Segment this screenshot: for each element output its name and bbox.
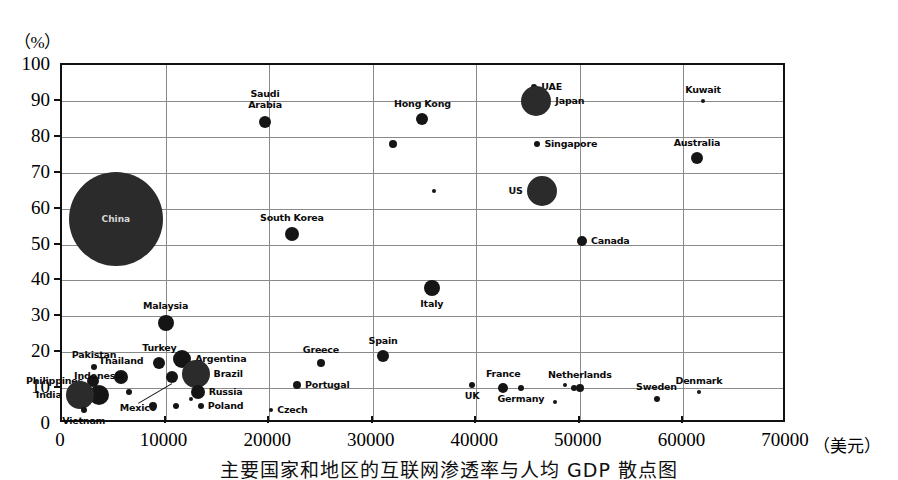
y-tick-label-100: 100 — [0, 54, 50, 73]
x-tick-mark-20000 — [267, 416, 269, 423]
bubble-label-czech: Czech — [277, 405, 307, 415]
bubble-label-sweden: Sweden — [636, 382, 677, 392]
x-axis-unit-label: （美元） — [813, 432, 881, 457]
bubble-singapore[interactable] — [534, 141, 540, 147]
bubble-label-hong-kong: Hong Kong — [394, 99, 451, 109]
bubble-germany[interactable] — [518, 385, 524, 391]
y-tick-mark-20 — [54, 350, 61, 352]
y-tick-mark-70 — [54, 171, 61, 173]
y-tick-label-30: 30 — [0, 305, 50, 324]
bubble-label-netherlands: Netherlands — [548, 370, 612, 380]
bubble-japan[interactable] — [521, 86, 551, 116]
bubble-uk[interactable] — [469, 382, 475, 388]
x-tick-label-60000: 60000 — [621, 430, 741, 449]
bubble-label-france: France — [486, 369, 521, 379]
bubble-australia[interactable] — [691, 152, 703, 164]
y-tick-mark-90 — [54, 99, 61, 101]
y-tick-label-10: 10 — [0, 377, 50, 396]
x-tick-mark-60000 — [681, 416, 683, 423]
bubble-label-indonesia: Indonesia — [74, 371, 124, 381]
bubble-portugal[interactable] — [293, 381, 301, 389]
y-tick-mark-60 — [54, 207, 61, 209]
gridline-x-40000 — [476, 65, 477, 420]
y-tick-label-50: 50 — [0, 234, 50, 253]
gridline-y-60 — [62, 209, 783, 210]
gridline-x-30000 — [373, 65, 374, 420]
bubble-unlabeled-3[interactable] — [126, 389, 132, 395]
bubble-czech[interactable] — [269, 408, 273, 412]
x-tick-mark-50000 — [578, 416, 580, 423]
x-tick-mark-40000 — [474, 416, 476, 423]
bubble-saudi-arabia[interactable] — [259, 116, 271, 128]
bubble-unlabeled-9[interactable] — [553, 400, 557, 404]
bubble-sweden[interactable] — [654, 396, 660, 402]
bubble-brazil[interactable] — [182, 360, 210, 388]
x-tick-label-20000: 20000 — [207, 430, 327, 449]
x-tick-label-50000: 50000 — [518, 430, 638, 449]
y-tick-label-40: 40 — [0, 269, 50, 288]
y-tick-label-70: 70 — [0, 162, 50, 181]
bubble-denmark[interactable] — [697, 390, 701, 394]
y-tick-mark-80 — [54, 135, 61, 137]
gridline-x-60000 — [683, 65, 684, 420]
bubble-south-korea[interactable] — [285, 227, 299, 241]
bubble-label-turkey: Turkey — [142, 343, 176, 353]
bubble-label-kuwait: Kuwait — [685, 85, 721, 95]
bubble-poland[interactable] — [198, 403, 204, 409]
bubble-pakistan[interactable] — [91, 364, 97, 370]
bubble-unlabeled-7[interactable] — [563, 383, 567, 387]
x-tick-label-40000: 40000 — [414, 430, 534, 449]
bubble-label-australia: Australia — [674, 138, 721, 148]
bubble-hong-kong[interactable] — [416, 113, 428, 125]
bubble-india[interactable] — [66, 381, 94, 409]
bubble-malaysia[interactable] — [158, 315, 174, 331]
x-tick-mark-30000 — [371, 416, 373, 423]
bubble-label-portugal: Portugal — [305, 380, 349, 390]
bubble-vietnam[interactable] — [81, 407, 87, 413]
bubble-unlabeled-1[interactable] — [389, 140, 397, 148]
y-tick-mark-10 — [54, 386, 61, 388]
bubble-label-greece: Greece — [303, 345, 339, 355]
bubble-unlabeled-4[interactable] — [149, 402, 157, 410]
x-tick-label-10000: 10000 — [104, 430, 224, 449]
bubble-italy[interactable] — [424, 280, 440, 296]
bubble-kuwait[interactable] — [701, 99, 705, 103]
y-tick-label-20: 20 — [0, 341, 50, 360]
bubble-label-germany: Germany — [497, 394, 544, 404]
bubble-france[interactable] — [498, 383, 508, 393]
bubble-label-canada: Canada — [591, 236, 630, 246]
bubble-label-us: US — [508, 186, 522, 196]
bubble-label-denmark: Denmark — [675, 376, 722, 386]
y-tick-mark-50 — [54, 243, 61, 245]
bubble-unlabeled-6[interactable] — [189, 397, 193, 401]
bubble-label-south-korea: South Korea — [260, 213, 324, 223]
bubble-label-saudi-arabia: Saudi Arabia — [248, 89, 282, 109]
bubble-netherlands[interactable] — [576, 384, 584, 392]
y-tick-label-60: 60 — [0, 198, 50, 217]
bubble-spain[interactable] — [377, 350, 389, 362]
bubble-label-thailand: Thailand — [99, 356, 144, 366]
bubble-canada[interactable] — [577, 236, 587, 246]
bubble-greece[interactable] — [317, 359, 325, 367]
x-tick-label-30000: 30000 — [311, 430, 431, 449]
bubble-label-singapore: Singapore — [544, 139, 597, 149]
x-tick-label-0: 0 — [0, 430, 120, 449]
bubble-mexico[interactable] — [166, 371, 178, 383]
y-tick-label-80: 80 — [0, 126, 50, 145]
bubble-label-italy: Italy — [420, 299, 443, 309]
bubble-us[interactable] — [527, 176, 557, 206]
bubble-turkey[interactable] — [153, 357, 165, 369]
x-tick-mark-10000 — [164, 416, 166, 423]
y-tick-label-90: 90 — [0, 90, 50, 109]
bubble-label-malaysia: Malaysia — [143, 301, 188, 311]
bubble-unlabeled-5[interactable] — [173, 403, 179, 409]
gridline-y-40 — [62, 280, 783, 281]
gridline-y-70 — [62, 173, 783, 174]
bubble-unlabeled-2[interactable] — [432, 189, 436, 193]
gridline-x-10000 — [166, 65, 167, 420]
plot-area: ChinaSaudi ArabiaHong KongUAEJapanKuwait… — [60, 63, 785, 422]
bubble-unlabeled-8[interactable] — [571, 385, 577, 391]
bubble-label-poland: Poland — [208, 401, 244, 411]
bubble-label-spain: Spain — [369, 336, 398, 346]
bubble-label-china: China — [102, 214, 131, 224]
